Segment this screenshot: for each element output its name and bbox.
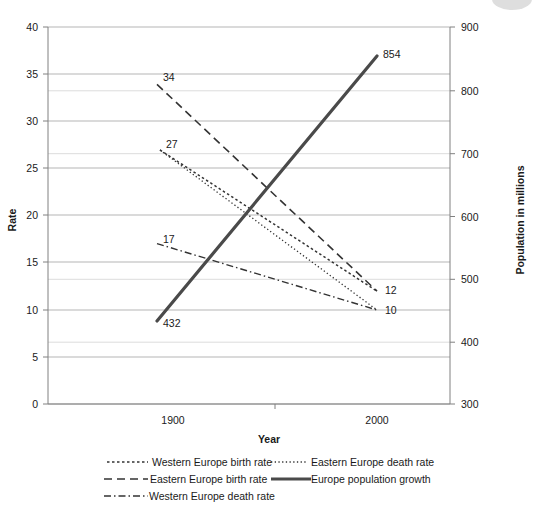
legend-label-eastern-europe-death-rate: Eastern Europe death rate bbox=[311, 456, 434, 468]
y-tick-label-30: 30 bbox=[26, 115, 38, 127]
legend-item-eastern-europe-death-rate[interactable]: Eastern Europe death rate bbox=[271, 456, 434, 468]
y-tick-label-5: 5 bbox=[32, 351, 38, 363]
y2-tick-label-300: 300 bbox=[461, 398, 479, 410]
legend-item-western-europe-death-rate[interactable]: Western Europe death rate bbox=[104, 490, 275, 502]
data-point-labels: 34 27 17 432 854 12 10 bbox=[163, 48, 401, 329]
y-axis-right bbox=[450, 27, 455, 404]
data-label-17: 17 bbox=[163, 233, 175, 245]
x-tick-label-1900: 1900 bbox=[161, 414, 185, 426]
y-axis-right-title: Population in millions bbox=[514, 165, 526, 274]
legend-item-eastern-europe-birth-rate[interactable]: Eastern Europe birth rate bbox=[104, 473, 267, 485]
y2-tick-label-900: 900 bbox=[461, 21, 479, 33]
series-line-europe-population-growth bbox=[157, 56, 377, 321]
y2-tick-label-600: 600 bbox=[461, 211, 479, 223]
series-line-western-europe-birth-rate bbox=[160, 150, 377, 291]
y-axis-left-tick-labels: 40 35 30 25 20 15 10 5 0 bbox=[26, 21, 38, 410]
legend-label-eastern-europe-birth-rate: Eastern Europe birth rate bbox=[150, 473, 267, 485]
y2-tick-label-400: 400 bbox=[461, 336, 479, 348]
y-tick-label-25: 25 bbox=[26, 162, 38, 174]
y-axis-left bbox=[43, 27, 48, 404]
data-label-34: 34 bbox=[163, 71, 175, 83]
line-chart: 40 35 30 25 20 15 10 5 0 900 800 700 600… bbox=[0, 0, 538, 507]
y-tick-label-20: 20 bbox=[26, 209, 38, 221]
x-tick-label-2000: 2000 bbox=[365, 414, 389, 426]
data-label-432: 432 bbox=[163, 317, 181, 329]
legend-label-western-europe-birth-rate: Western Europe birth rate bbox=[152, 456, 272, 468]
data-label-10: 10 bbox=[385, 304, 397, 316]
legend-label-europe-population-growth: Europe population growth bbox=[311, 473, 431, 485]
chart-legend: Western Europe birth rate Eastern Europe… bbox=[104, 456, 434, 502]
legend-item-western-europe-birth-rate[interactable]: Western Europe birth rate bbox=[107, 456, 272, 468]
chart-figure: 40 35 30 25 20 15 10 5 0 900 800 700 600… bbox=[0, 0, 538, 507]
y-axis-right-tick-labels: 900 800 700 600 500 400 300 bbox=[461, 21, 479, 410]
data-label-12: 12 bbox=[385, 284, 397, 296]
y-tick-label-10: 10 bbox=[26, 304, 38, 316]
series-line-western-europe-death-rate bbox=[157, 244, 377, 310]
x-axis bbox=[48, 404, 450, 409]
y-tick-label-40: 40 bbox=[26, 21, 38, 33]
x-axis-title: Year bbox=[258, 433, 280, 445]
series-line-eastern-europe-death-rate bbox=[160, 150, 377, 310]
y2-tick-label-700: 700 bbox=[461, 148, 479, 160]
y-tick-label-15: 15 bbox=[26, 256, 38, 268]
y-tick-label-0: 0 bbox=[32, 398, 38, 410]
data-label-854: 854 bbox=[383, 48, 401, 60]
y2-tick-label-800: 800 bbox=[461, 85, 479, 97]
y2-tick-label-500: 500 bbox=[461, 273, 479, 285]
legend-item-europe-population-growth[interactable]: Europe population growth bbox=[271, 473, 431, 485]
x-axis-tick-labels: 1900 2000 bbox=[161, 414, 389, 426]
y-tick-label-35: 35 bbox=[26, 68, 38, 80]
y-axis-left-title: Rate bbox=[6, 208, 18, 231]
legend-label-western-europe-death-rate: Western Europe death rate bbox=[149, 490, 275, 502]
data-label-27: 27 bbox=[166, 138, 178, 150]
gridlines-left bbox=[48, 27, 450, 404]
